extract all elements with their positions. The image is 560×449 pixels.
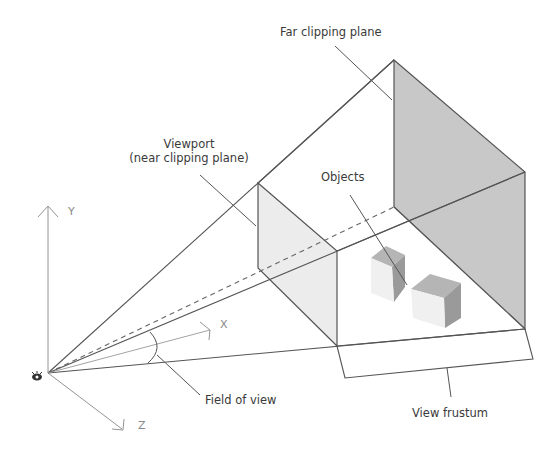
viewport-label: Viewport (near clipping plane) (119, 137, 259, 165)
x-axis-label: X (220, 318, 228, 331)
objects-label: Objects (321, 170, 364, 184)
near-clipping-plane (258, 183, 337, 346)
eye-icon (32, 371, 42, 381)
view-frustum-label: View frustum (412, 406, 488, 420)
y-axis-label: Y (68, 205, 75, 218)
far-clipping-plane-label: Far clipping plane (280, 25, 382, 39)
viewport-label-line2: (near clipping plane) (119, 151, 259, 165)
axes (38, 206, 210, 430)
frustum-diagram (0, 0, 560, 449)
viewport-label-line1: Viewport (119, 137, 259, 151)
field-of-view-label: Field of view (205, 393, 276, 407)
z-axis-label: Z (138, 419, 146, 432)
